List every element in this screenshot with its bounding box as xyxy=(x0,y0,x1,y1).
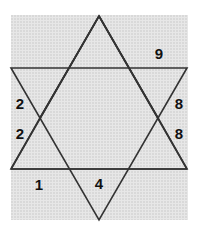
downward-triangle xyxy=(11,68,187,220)
upward-right-edge xyxy=(99,16,187,169)
number-bottom-left: 1 xyxy=(33,177,45,192)
upward-triangle xyxy=(11,16,187,169)
number-right-upper: 8 xyxy=(173,96,185,111)
number-left-lower: 2 xyxy=(14,126,26,141)
upward-triangle-edges xyxy=(40,16,158,118)
star-of-david-diagram xyxy=(0,0,200,234)
upward-left-edge xyxy=(11,16,99,169)
number-top-right: 9 xyxy=(153,46,165,61)
number-right-lower: 8 xyxy=(173,126,185,141)
star-number-puzzle: 9 2 2 8 8 1 4 xyxy=(0,0,200,234)
number-bottom-center: 4 xyxy=(93,176,105,191)
number-left-upper: 2 xyxy=(14,96,26,111)
